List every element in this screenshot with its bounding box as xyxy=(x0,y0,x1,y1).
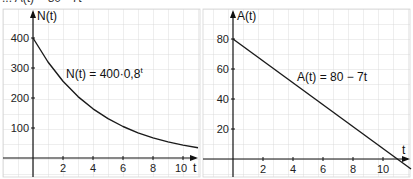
right-y-label: A(t) xyxy=(237,9,256,23)
right-y-tick: 40 xyxy=(217,93,229,105)
charts-canvas: 2 4 6 8 10 t 100 200 300 400 N(t) N(t) =… xyxy=(0,0,413,179)
left-y-tick: 100 xyxy=(11,122,29,134)
left-y-label: N(t) xyxy=(37,9,57,23)
right-chart-panel: 2 4 6 8 10 t 20 40 60 80 A(t) A(t) = 80 … xyxy=(203,9,411,177)
left-x-tick: 6 xyxy=(120,162,126,174)
left-x-tick: 2 xyxy=(60,162,66,174)
right-x-tick: 4 xyxy=(290,163,296,175)
right-y-tick: 20 xyxy=(217,123,229,135)
right-x-tick: 6 xyxy=(320,163,326,175)
left-y-tick: 300 xyxy=(11,62,29,74)
right-x-tick: 2 xyxy=(260,163,266,175)
left-y-tick: 400 xyxy=(11,32,29,44)
left-x-tick: 4 xyxy=(90,162,96,174)
left-chart-panel: 2 4 6 8 10 t 100 200 300 400 N(t) N(t) =… xyxy=(3,9,200,177)
right-y-tick: 60 xyxy=(217,63,229,75)
right-x-tick: 10 xyxy=(377,163,389,175)
left-x-tick: 8 xyxy=(150,162,156,174)
left-x-tick: 10 xyxy=(175,162,187,174)
left-y-tick: 200 xyxy=(11,92,29,104)
right-equation-label: A(t) = 80 − 7t xyxy=(297,70,368,84)
right-x-tick: 8 xyxy=(350,163,356,175)
left-equation-label: N(t) = 400·0,8t xyxy=(66,66,143,81)
right-y-tick: 80 xyxy=(217,33,229,45)
